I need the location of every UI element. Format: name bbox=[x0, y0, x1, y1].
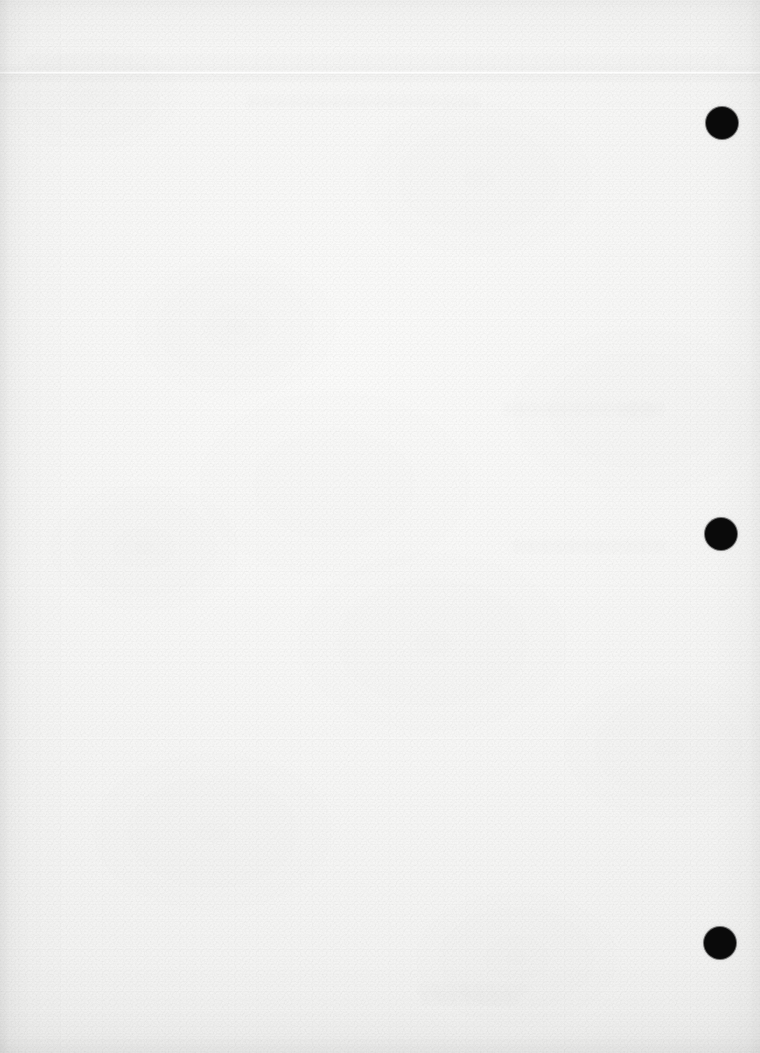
scan-vignette bbox=[0, 0, 760, 1053]
punch-hole-middle bbox=[705, 518, 737, 550]
scanned-page bbox=[0, 0, 760, 1053]
punch-hole-bottom bbox=[704, 927, 736, 959]
punch-hole-top bbox=[706, 107, 738, 139]
